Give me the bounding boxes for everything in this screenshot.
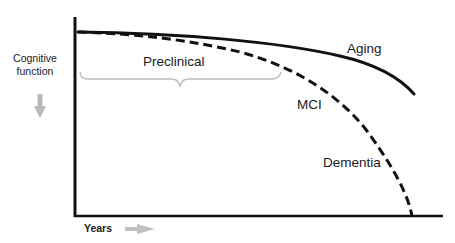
preclinical-brace — [80, 72, 281, 86]
right-arrow-icon — [125, 224, 155, 234]
dementia-label: Dementia — [323, 155, 381, 170]
aging-label: Aging — [347, 41, 382, 56]
dementia-curve — [78, 32, 412, 216]
cognitive-decline-diagram — [0, 0, 455, 243]
down-arrow-icon — [34, 94, 46, 118]
preclinical-label: Preclinical — [143, 54, 205, 69]
x-axis-label: Years — [84, 222, 112, 234]
mci-label: MCI — [297, 97, 322, 112]
y-axis-label: Cognitive function — [4, 52, 66, 78]
